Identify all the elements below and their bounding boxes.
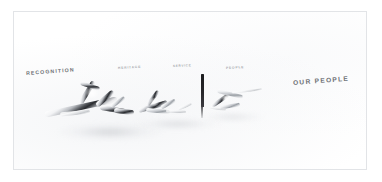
slide-border-frame (13, 11, 367, 170)
label-service: SERVICE (173, 63, 192, 68)
slide-canvas: RECOGNITION HERITAGE SERVICE PEOPLE OUR … (0, 0, 382, 182)
